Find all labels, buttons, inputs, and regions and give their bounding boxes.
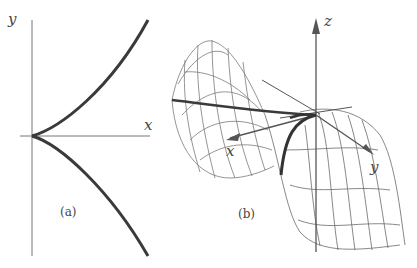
tangent-line-1 [262, 80, 320, 114]
cusp-curve-upper [32, 20, 148, 136]
panel-caption-b: (b) [238, 207, 255, 221]
surface-mesh-right [265, 109, 405, 250]
bold-curve-horizontal [172, 100, 316, 115]
figure: y x (a) [0, 0, 417, 268]
cusp-curve-lower [32, 136, 148, 256]
x-axis-label-3d: x [226, 142, 235, 160]
panel-caption-a: (a) [60, 205, 77, 219]
z-axis-label: z [323, 12, 332, 30]
bold-cusp-curve [281, 115, 316, 175]
panel-a: y x (a) [7, 10, 153, 256]
x-arrow-icon [226, 133, 240, 141]
x-axis-3d [230, 115, 316, 138]
x-axis-label: x [144, 116, 153, 134]
z-arrow-icon [312, 18, 320, 34]
y-axis-label: y [7, 10, 17, 28]
y-axis-label-3d: y [369, 158, 379, 176]
surface-mesh-left [172, 40, 274, 178]
figure-svg: y x (a) [0, 0, 417, 268]
panel-b: z x y (b) [172, 12, 405, 252]
